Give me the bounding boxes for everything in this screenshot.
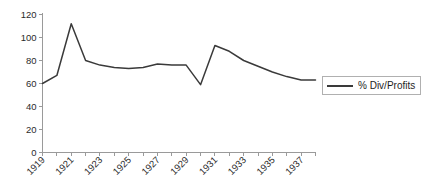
y-axis-tick-label: 40 (26, 101, 37, 112)
legend-item-label: % Div/Profits (358, 80, 415, 91)
y-axis-tick-label: 120 (21, 9, 37, 20)
x-axis-tick-label: 1931 (197, 154, 220, 177)
x-axis-tick-label: 1937 (283, 154, 306, 177)
line-chart: 0204060801001201919192119231925192719291… (0, 0, 422, 192)
y-axis-tick-label: 60 (26, 78, 37, 89)
x-axis-tick-label: 1921 (53, 154, 76, 177)
y-axis-tick-label: 80 (26, 55, 37, 66)
legend-line-swatch (327, 80, 353, 90)
x-axis-tick-label: 1925 (110, 154, 133, 177)
x-axis-tick-label: 1919 (24, 154, 47, 177)
x-axis-tick-label: 1927 (139, 154, 162, 177)
x-axis-tick-label: 1935 (254, 154, 277, 177)
y-axis-tick-label: 20 (26, 124, 37, 135)
x-axis-tick-label: 1933 (225, 154, 248, 177)
x-axis-tick-label: 1923 (82, 154, 105, 177)
y-axis-tick-label: 100 (21, 32, 37, 43)
chart-plot-area: 0204060801001201919192119231925192719291… (0, 0, 422, 192)
x-axis-tick-label: 1929 (168, 154, 191, 177)
chart-legend: % Div/Profits (322, 76, 421, 95)
series-line-div-profits (43, 24, 316, 85)
